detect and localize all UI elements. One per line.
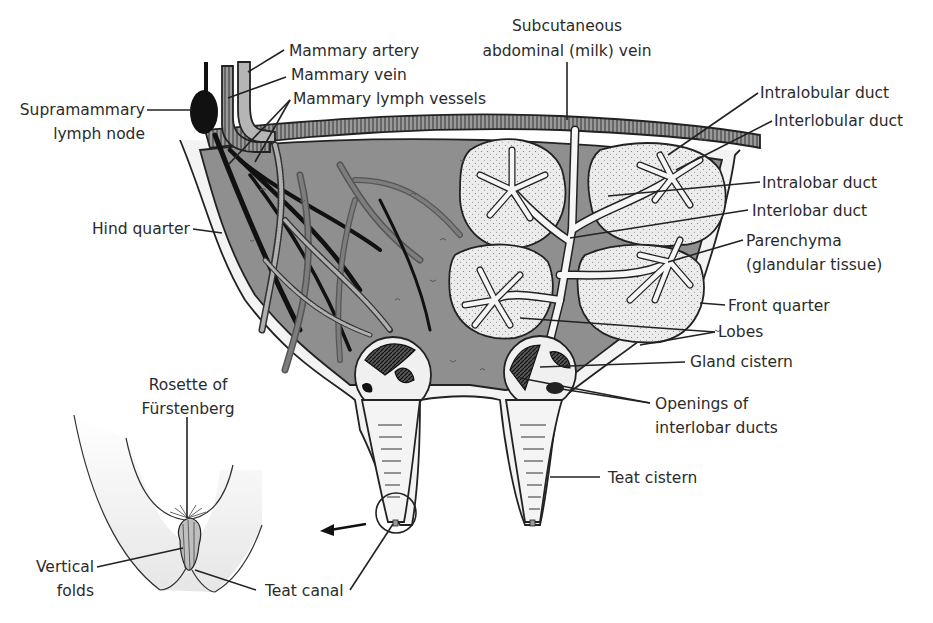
- label-milk-vein-line1: Subcutaneous: [512, 17, 622, 35]
- supramammary-lymph-node: [190, 90, 218, 134]
- label-lobes: Lobes: [718, 323, 763, 341]
- label-parenchyma-line2: (glandular tissue): [746, 256, 882, 274]
- udder-cross-section: [180, 62, 760, 536]
- label-openings-line1: Openings of: [655, 395, 749, 413]
- label-rosette-line1: Rosette of: [149, 376, 228, 394]
- label-rosette-line2: Fürstenberg: [141, 400, 234, 418]
- label-mammary-vein: Mammary vein: [291, 66, 407, 84]
- label-vertical-folds-line1: Vertical: [36, 558, 94, 576]
- label-parenchyma-line1: Parenchyma: [746, 232, 842, 250]
- label-interlobular-duct: Interlobular duct: [774, 112, 903, 130]
- label-supramammary-line1: Supramammary: [20, 101, 145, 119]
- label-supramammary-line2: lymph node: [53, 125, 145, 143]
- label-intralobular-duct: Intralobular duct: [760, 84, 889, 102]
- label-teat-canal: Teat canal: [264, 582, 344, 600]
- label-milk-vein-line2: abdominal (milk) vein: [482, 42, 651, 60]
- label-hind-quarter: Hind quarter: [92, 220, 191, 238]
- label-interlobar-duct: Interlobar duct: [752, 202, 867, 220]
- label-mammary-lymph-vessels: Mammary lymph vessels: [293, 90, 486, 108]
- label-mammary-artery: Mammary artery: [289, 42, 419, 60]
- label-intralobar-duct: Intralobar duct: [762, 174, 877, 192]
- label-teat-cistern: Teat cistern: [607, 469, 697, 487]
- magnify-arrow: [320, 524, 366, 536]
- gland-cistern-front: [504, 336, 576, 408]
- label-openings-line2: interlobar ducts: [655, 419, 778, 437]
- udder-anatomy-diagram: Mammary artery Mammary vein Mammary lymp…: [0, 0, 933, 623]
- label-gland-cistern: Gland cistern: [690, 353, 793, 371]
- label-front-quarter: Front quarter: [728, 297, 830, 315]
- label-vertical-folds-line2: folds: [57, 582, 94, 600]
